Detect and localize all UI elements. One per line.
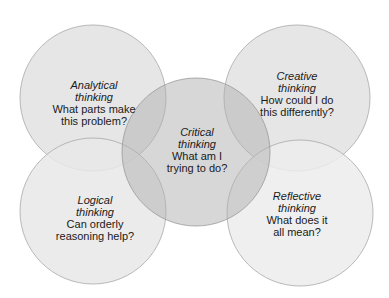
critical-question-1: What am I [167,150,228,162]
analytical-title-1: Analytical [52,79,135,91]
creative-question-1: How could I do [260,94,334,106]
logical-question-2: reasoning help? [56,230,134,242]
logical-label: Logical thinking Can orderly reasoning h… [56,194,134,242]
creative-title-1: Creative [260,70,334,82]
critical-question-2: trying to do? [167,162,228,174]
creative-label: Creative thinking How could I do this di… [260,70,334,118]
creative-question-2: this differently? [260,106,334,118]
critical-title-2: thinking [167,138,228,150]
reflective-question-2: all mean? [266,226,327,238]
analytical-question-2: this problem? [52,115,135,127]
critical-title-1: Critical [167,126,228,138]
reflective-label: Reflective thinking What does it all mea… [266,190,327,238]
analytical-label: Analytical thinking What parts make this… [52,79,135,127]
critical-label: Critical thinking What am I trying to do… [167,126,228,174]
logical-question-1: Can orderly [56,218,134,230]
reflective-title-1: Reflective [266,190,327,202]
logical-title-2: thinking [56,206,134,218]
analytical-question-1: What parts make [52,103,135,115]
reflective-title-2: thinking [266,202,327,214]
creative-title-2: thinking [260,82,334,94]
analytical-title-2: thinking [52,91,135,103]
reflective-question-1: What does it [266,214,327,226]
logical-title-1: Logical [56,194,134,206]
